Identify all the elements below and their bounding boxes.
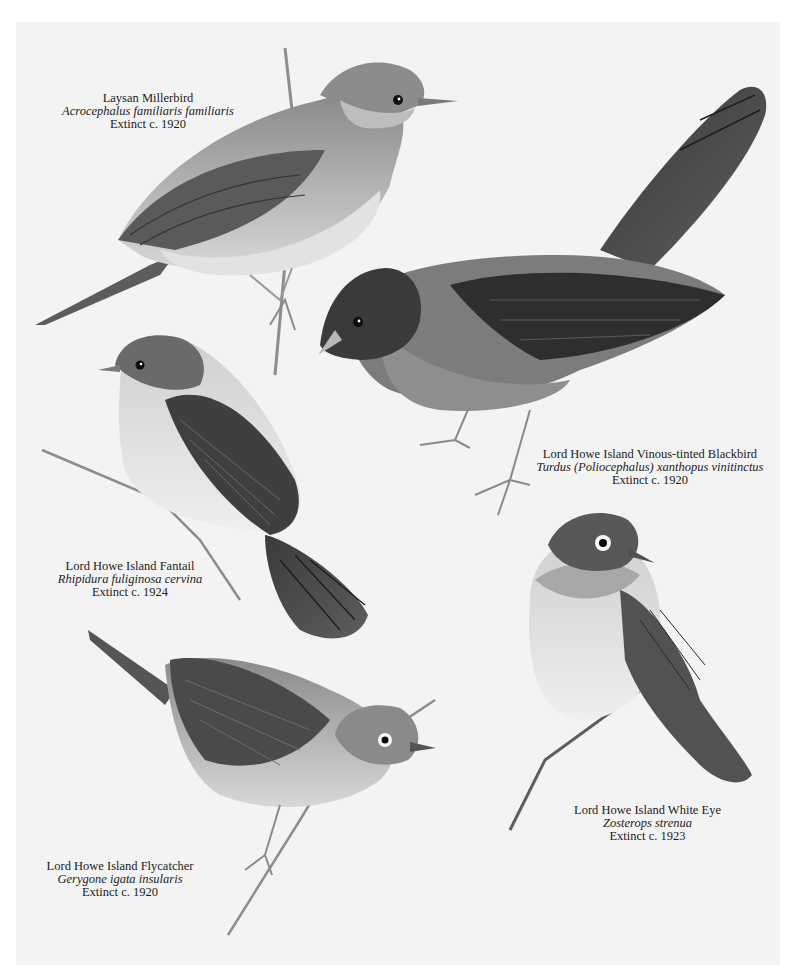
extinction-status: Extinct c. 1923	[535, 830, 760, 843]
caption-flycatcher: Lord Howe Island Flycatcher Gerygone iga…	[20, 860, 220, 899]
extinction-status: Extinct c. 1920	[505, 474, 795, 487]
extinction-status: Extinct c. 1924	[20, 586, 240, 599]
caption-fantail: Lord Howe Island Fantail Rhipidura fulig…	[20, 560, 240, 599]
extinction-status: Extinct c. 1920	[18, 118, 278, 131]
caption-vinous-tinted-blackbird: Lord Howe Island Vinous-tinted Blackbird…	[505, 448, 795, 487]
caption-white-eye: Lord Howe Island White Eye Zosterops str…	[535, 804, 760, 843]
extinction-status: Extinct c. 1920	[20, 886, 220, 899]
caption-laysan-millerbird: Laysan Millerbird Acrocephalus familiari…	[18, 92, 278, 131]
bird-white-eye	[510, 513, 752, 830]
